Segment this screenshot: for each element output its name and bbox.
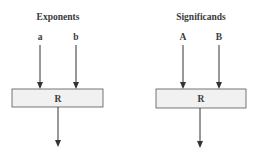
exponents-panel: Exponents a b R (12, 12, 103, 147)
diagram-canvas: Exponents a b R Significands A B R (0, 0, 258, 159)
input-label-A: A (180, 32, 187, 42)
exponents-output-head-icon (55, 140, 61, 147)
arrow-a-head-icon (37, 82, 43, 89)
exponents-register-label: R (55, 94, 62, 104)
input-label-B: B (216, 32, 223, 42)
significands-register-label: R (198, 94, 205, 104)
significands-output-head-icon (197, 141, 203, 148)
significands-title: Significands (176, 12, 226, 22)
arrow-A-head-icon (180, 82, 186, 89)
exponents-title: Exponents (37, 12, 80, 22)
arrow-b-head-icon (73, 82, 79, 89)
significands-panel: Significands A B R (156, 12, 246, 148)
input-label-a: a (38, 32, 43, 42)
input-label-b: b (73, 32, 78, 42)
arrow-B-head-icon (216, 82, 222, 89)
